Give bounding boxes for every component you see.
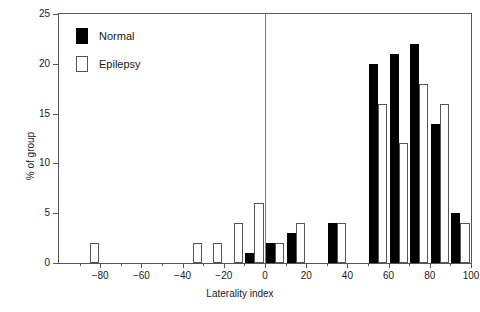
x-minor-tick-70 xyxy=(409,263,410,266)
x-minor-tick--30 xyxy=(203,263,204,266)
bar-epilepsy--20 xyxy=(234,223,243,263)
x-minor-tick-10 xyxy=(286,263,287,266)
x-tick-label--20: −20 xyxy=(215,270,232,281)
y-tick-0 xyxy=(53,263,59,264)
x-tick-label-40: 40 xyxy=(342,270,353,281)
y-tick-10 xyxy=(53,163,59,164)
y-tick-label-10: 10 xyxy=(39,158,50,168)
bar-epilepsy-90 xyxy=(460,223,469,263)
bar-normal-10 xyxy=(287,233,296,263)
x-tick-label-20: 20 xyxy=(301,270,312,281)
x-tick--20 xyxy=(224,263,225,268)
x-tick-label-60: 60 xyxy=(383,270,394,281)
legend-swatch-epilepsy-icon xyxy=(76,56,88,72)
y-axis-title: % of group xyxy=(25,132,36,180)
bar-epilepsy--10 xyxy=(254,203,263,263)
bar-epilepsy-10 xyxy=(296,223,305,263)
x-minor-tick-50 xyxy=(368,263,369,266)
chart-legend: Normal Epilepsy xyxy=(76,28,141,84)
bar-normal-30 xyxy=(328,223,337,263)
bar-epilepsy-0 xyxy=(275,243,284,263)
x-minor-tick--50 xyxy=(162,263,163,266)
bar-normal-70 xyxy=(410,44,419,263)
x-minor-tick--90 xyxy=(80,263,81,266)
legend-swatch-normal-icon xyxy=(76,28,88,44)
x-tick-0 xyxy=(265,263,266,268)
bar-epilepsy-80 xyxy=(440,104,449,263)
bar-normal-50 xyxy=(369,64,378,263)
y-tick-15 xyxy=(53,114,59,115)
y-tick-label-25: 25 xyxy=(39,9,50,19)
x-tick-label-100: 100 xyxy=(463,270,480,281)
bar-epilepsy--90 xyxy=(90,243,99,263)
zero-reference-line xyxy=(265,14,266,263)
y-tick-label-0: 0 xyxy=(44,258,50,268)
x-tick-100 xyxy=(471,263,472,268)
bar-normal--10 xyxy=(245,253,254,263)
y-tick-25 xyxy=(53,14,59,15)
bar-normal-90 xyxy=(451,213,460,263)
legend-label-normal: Normal xyxy=(99,31,134,42)
x-minor-tick--70 xyxy=(121,263,122,266)
x-tick-60 xyxy=(389,263,390,268)
histogram-figure: % of group 0510152025−80−60−40−200204060… xyxy=(0,0,480,312)
y-tick-label-5: 5 xyxy=(44,208,50,218)
x-minor-tick-30 xyxy=(327,263,328,266)
bar-epilepsy-70 xyxy=(419,84,428,263)
y-tick-label-20: 20 xyxy=(39,59,50,69)
bar-epilepsy-30 xyxy=(337,223,346,263)
legend-label-epilepsy: Epilepsy xyxy=(99,59,141,70)
y-tick-label-15: 15 xyxy=(39,109,50,119)
x-tick-label-80: 80 xyxy=(424,270,435,281)
x-tick--80 xyxy=(100,263,101,268)
x-tick-label--80: −80 xyxy=(92,270,109,281)
bar-normal-0 xyxy=(266,243,275,263)
x-tick-label--60: −60 xyxy=(133,270,150,281)
x-tick--60 xyxy=(141,263,142,268)
x-minor-tick-90 xyxy=(450,263,451,266)
x-tick-20 xyxy=(306,263,307,268)
x-axis-title: Laterality index xyxy=(0,288,480,299)
bar-normal-80 xyxy=(431,124,440,263)
y-tick-5 xyxy=(53,213,59,214)
bar-epilepsy-50 xyxy=(378,104,387,263)
x-minor-tick--10 xyxy=(244,263,245,266)
bar-epilepsy-60 xyxy=(399,143,408,263)
x-tick-40 xyxy=(347,263,348,268)
x-tick--40 xyxy=(183,263,184,268)
x-tick-80 xyxy=(430,263,431,268)
bar-epilepsy--40 xyxy=(193,243,202,263)
x-tick-label--40: −40 xyxy=(174,270,191,281)
x-tick-label-0: 0 xyxy=(262,270,268,281)
y-tick-20 xyxy=(53,64,59,65)
legend-item-normal: Normal xyxy=(76,28,141,44)
legend-item-epilepsy: Epilepsy xyxy=(76,56,141,72)
bar-normal-60 xyxy=(390,54,399,263)
bar-epilepsy--30 xyxy=(213,243,222,263)
